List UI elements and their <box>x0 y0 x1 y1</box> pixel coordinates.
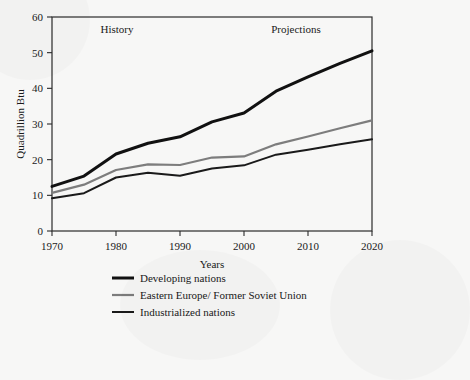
y-axis-ticks: 0102030405060 <box>32 11 52 237</box>
x-axis-ticks: 197019801990200020102020 <box>41 231 384 252</box>
legend-label: Eastern Europe/ Former Soviet Union <box>140 289 307 301</box>
data-series-group <box>52 51 372 198</box>
x-axis-title: Years <box>200 258 225 270</box>
x-tick-label: 2000 <box>233 240 256 252</box>
x-tick-label: 2010 <box>297 240 320 252</box>
y-tick-label: 0 <box>38 225 44 237</box>
y-tick-label: 30 <box>32 118 44 130</box>
x-tick-label: 2020 <box>361 240 384 252</box>
series-line <box>52 139 372 198</box>
y-tick-label: 40 <box>32 82 44 94</box>
y-tick-label: 60 <box>32 11 44 23</box>
series-line <box>52 51 372 187</box>
x-tick-label: 1990 <box>169 240 192 252</box>
plot-area-frame <box>52 17 372 231</box>
y-axis-title: Quadrillion Btu <box>14 89 26 159</box>
x-tick-label: 1980 <box>105 240 128 252</box>
series-line <box>52 120 372 192</box>
legend-label: Developing nations <box>140 272 226 284</box>
y-tick-label: 20 <box>32 154 44 166</box>
annotation-history: History <box>101 23 135 35</box>
x-tick-label: 1970 <box>41 240 64 252</box>
legend-label: Industrialized nations <box>140 306 235 318</box>
y-tick-label: 10 <box>32 189 44 201</box>
annotation-projections: Projections <box>271 23 321 35</box>
y-tick-label: 50 <box>32 47 44 59</box>
chart-legend: Developing nationsEastern Europe/ Former… <box>112 272 307 318</box>
